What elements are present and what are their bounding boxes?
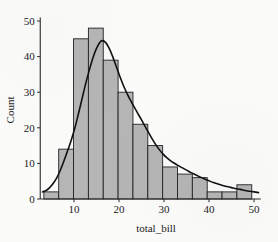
x-tick-label: 50 xyxy=(249,203,261,215)
y-tick-label: 10 xyxy=(24,157,36,169)
histogram-bar xyxy=(103,60,118,199)
x-axis: 1020304050 xyxy=(40,199,261,215)
y-tick-label: 40 xyxy=(24,50,36,62)
histogram-bar xyxy=(133,124,148,199)
y-axis: 01020304050 xyxy=(24,15,41,205)
histogram-bar xyxy=(118,92,133,199)
histogram-bar xyxy=(44,192,59,199)
histogram-bar xyxy=(74,39,89,199)
y-tick-label: 50 xyxy=(24,15,36,27)
y-tick-label: 20 xyxy=(24,122,36,134)
x-axis-title: total_bill xyxy=(136,222,176,234)
histogram-bar xyxy=(163,167,178,199)
histogram-bar xyxy=(178,174,193,199)
histogram-bar xyxy=(207,192,222,199)
histogram-bar xyxy=(148,146,163,199)
y-tick-group: 01020304050 xyxy=(24,15,41,205)
x-tick-label: 30 xyxy=(159,203,171,215)
histogram-bar xyxy=(222,192,237,199)
plot-canvas: 01020304050 1020304050 total_bill Count xyxy=(0,0,278,242)
x-tick-label: 40 xyxy=(204,203,216,215)
y-tick-label: 30 xyxy=(24,86,36,98)
x-tick-label: 20 xyxy=(114,203,126,215)
histogram-bar xyxy=(192,178,207,199)
histogram-figure: 01020304050 1020304050 total_bill Count xyxy=(0,0,278,242)
x-tick-group: 1020304050 xyxy=(69,199,261,215)
x-tick-label: 10 xyxy=(69,203,81,215)
histogram-bar xyxy=(88,28,103,199)
bars-group xyxy=(44,28,252,199)
y-tick-label: 0 xyxy=(29,193,35,205)
y-axis-title: Count xyxy=(4,97,16,124)
